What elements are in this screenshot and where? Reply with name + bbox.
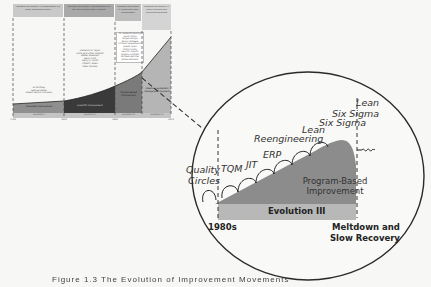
start-label-1980s: 1980s	[208, 222, 237, 233]
program-label-lean-six-sigma: Lean Six Sigma	[332, 98, 379, 119]
end-label-meltdown: Meltdown and Slow Recovery	[330, 222, 400, 244]
program-label-tqm: TQM	[221, 164, 242, 175]
program-label-six-sigma: Six Sigma	[319, 118, 366, 129]
program-label-jit: JIT	[246, 160, 257, 171]
program-label-reengineering: Reengineering	[254, 134, 323, 145]
program-label-erp: ERP	[263, 150, 281, 161]
evolution-iii-label: Evolution III	[268, 206, 325, 217]
program-based-improvement-label: Program-Based Improvement	[300, 176, 370, 196]
figure-caption: Figure 1.3 The Evolution of Improvement …	[52, 275, 289, 284]
program-label-quality-circles: Quality Circles	[186, 165, 220, 186]
